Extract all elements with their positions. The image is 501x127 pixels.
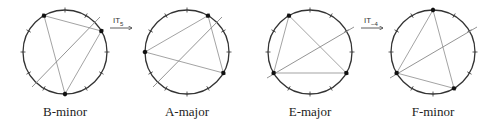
triad-triangle: [44, 16, 101, 94]
chord-label: B-minor: [15, 104, 115, 120]
chord-circle-a-major: [143, 8, 232, 97]
symmetry-axis: [267, 27, 354, 78]
chord-circle-b-minor: [21, 8, 110, 97]
pitch-vertex-dot: [221, 71, 225, 75]
chord-circle-f-minor: [389, 8, 478, 97]
pitch-vertex-dot: [206, 13, 210, 17]
symmetry-axis: [32, 17, 100, 87]
pitch-class-circle: [391, 10, 475, 94]
pitch-vertex-dot: [63, 92, 67, 96]
chord-label: F-minor: [383, 104, 483, 120]
triad-triangle: [274, 16, 347, 73]
pitch-vertex-dot: [143, 50, 147, 54]
transformation-label: IT5: [113, 16, 123, 27]
pitch-vertex-dot: [99, 29, 103, 33]
transformation-subscript: 5: [120, 21, 123, 27]
transformation-label: IT−4: [364, 16, 378, 27]
pitch-vertex-dot: [271, 71, 275, 75]
pitch-vertex-dot: [287, 13, 291, 17]
chord-circle-e-major: [266, 8, 355, 97]
pitch-vertex-dot: [431, 8, 435, 12]
transformation-subscript: −4: [371, 21, 378, 27]
symmetry-axis: [390, 27, 477, 78]
triad-triangle: [397, 10, 454, 88]
pitch-vertex-dot: [394, 71, 398, 75]
pitch-vertex-dot: [452, 86, 456, 90]
pitch-vertex-dot: [344, 71, 348, 75]
pitch-vertex-dot: [42, 13, 46, 17]
triad-triangle: [145, 16, 223, 73]
chord-label: A-major: [137, 104, 237, 120]
pitch-class-circle: [268, 10, 352, 94]
chord-label: E-major: [260, 104, 360, 120]
